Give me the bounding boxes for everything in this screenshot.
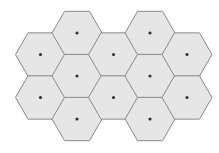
center-dot	[185, 53, 188, 56]
hexagon-grid-diagram	[0, 0, 219, 153]
center-dot	[148, 117, 151, 120]
center-dot	[112, 96, 115, 99]
center-dot	[39, 96, 42, 99]
center-dot	[112, 53, 115, 56]
center-dot	[148, 74, 151, 77]
center-dot	[75, 117, 78, 120]
center-dot	[75, 74, 78, 77]
center-dot	[75, 31, 78, 34]
center-dot	[39, 53, 42, 56]
center-dot	[185, 96, 188, 99]
center-dot	[148, 31, 151, 34]
